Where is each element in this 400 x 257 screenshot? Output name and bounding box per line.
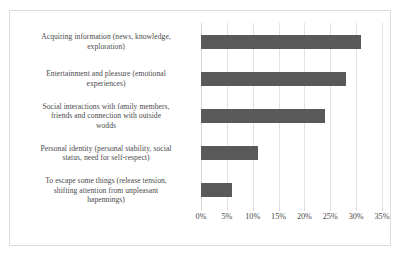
x-tick-mark-20pct	[304, 207, 305, 211]
category-label-3: Social interactions with family members,…	[12, 102, 200, 131]
bar-1	[201, 35, 361, 49]
bar-5	[201, 183, 232, 197]
category-label-4: Personal identity (personal stability, s…	[12, 144, 200, 163]
category-label-line: To escape some things (release tension,	[12, 176, 200, 186]
category-label-line: Acquiring information (news, knowledge,	[12, 32, 200, 42]
category-label-line: Social interactions with family members,	[12, 102, 200, 112]
x-tick-label-25pct: 25%	[323, 211, 338, 222]
x-axis-tick-labels: 0%5%10%15%20%25%30%35%	[201, 211, 382, 225]
x-tick-label-30pct: 30%	[349, 211, 364, 222]
x-tick-mark-30pct	[356, 207, 357, 211]
x-tick-mark-5pct	[227, 207, 228, 211]
x-tick-mark-10pct	[253, 207, 254, 211]
category-label-line: exploration)	[12, 42, 200, 52]
gridline-25pct	[330, 23, 331, 209]
gridline-30pct	[356, 23, 357, 209]
category-label-5: To escape some things (release tension,s…	[12, 176, 200, 205]
x-tick-label-5pct: 5%	[221, 211, 232, 222]
bar-2	[201, 72, 346, 86]
category-label-line: wodds	[12, 121, 200, 131]
x-tick-label-15pct: 15%	[271, 211, 286, 222]
bar-4	[201, 146, 258, 160]
chart-container: Acquiring information (news, knowledge,e…	[9, 10, 391, 246]
x-tick-label-20pct: 20%	[297, 211, 312, 222]
plot-area	[201, 23, 382, 209]
gridline-35pct	[382, 23, 383, 209]
category-label-line: shifting attention from unpleasant	[12, 186, 200, 196]
category-label-line: Personal identity (personal stability, s…	[12, 144, 200, 154]
category-label-2: Entertainment and pleasure (emotionalexp…	[12, 69, 200, 88]
category-axis-labels: Acquiring information (news, knowledge,e…	[12, 23, 200, 209]
x-tick-label-0pct: 0%	[196, 211, 207, 222]
bar-3	[201, 109, 325, 123]
x-tick-mark-15pct	[279, 207, 280, 211]
x-tick-mark-0pct	[201, 207, 202, 211]
x-tick-mark-35pct	[382, 207, 383, 211]
x-tick-label-10pct: 10%	[245, 211, 260, 222]
category-label-1: Acquiring information (news, knowledge,e…	[12, 32, 200, 51]
category-label-line: friends and connection with outside	[12, 111, 200, 121]
category-label-line: hapennings)	[12, 195, 200, 205]
category-label-line: experiences)	[12, 79, 200, 89]
chart-plot-wrapper: Acquiring information (news, knowledge,e…	[10, 11, 390, 245]
x-tick-mark-25pct	[330, 207, 331, 211]
category-label-line: status, need for self-respect)	[12, 153, 200, 163]
category-label-line: Entertainment and pleasure (emotional	[12, 69, 200, 79]
x-tick-label-35pct: 35%	[374, 211, 389, 222]
